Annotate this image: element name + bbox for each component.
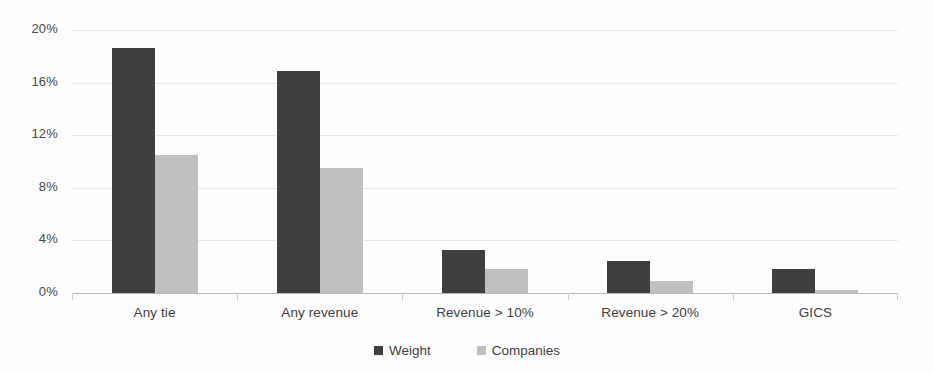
x-tick-mark-5 [897,293,898,300]
plot-area [72,30,898,293]
x-label-revenue-gt-20: Revenue > 20% [568,305,733,320]
x-tick-mark-3 [568,293,569,300]
legend-swatch-icon-weight [374,346,383,355]
y-tick-label-4: 16% [2,74,58,89]
bar-weight-revenue-gt-10 [442,250,485,293]
bar-group-revenue-gt-20 [568,30,733,293]
legend-label-companies: Companies [492,343,560,358]
bar-weight-any-tie [112,48,155,293]
x-label-any-tie: Any tie [72,305,237,320]
y-tick-label-2: 8% [2,179,58,194]
x-tick-mark-0 [72,293,73,300]
x-label-revenue-gt-10: Revenue > 10% [402,305,567,320]
bar-companies-revenue-gt-10 [485,269,528,293]
y-tick-label-3: 12% [2,126,58,141]
x-tick-mark-1 [237,293,238,300]
legend-swatch-icon-companies [477,346,486,355]
x-axis-line [72,293,898,294]
x-axis-category-labels: Any tie Any revenue Revenue > 10% Revenu… [72,305,898,320]
bar-companies-any-revenue [320,168,363,293]
legend-item-weight: Weight [374,343,431,358]
bar-chart: 0% 4% 8% 12% 16% 20% [0,0,934,373]
x-label-any-revenue: Any revenue [237,305,402,320]
bar-group-gics [733,30,898,293]
y-axis-tick-labels: 0% 4% 8% 12% 16% 20% [0,30,66,293]
bar-group-any-tie [72,30,237,293]
legend-item-companies: Companies [477,343,560,358]
bar-group-revenue-gt-10 [402,30,567,293]
bar-weight-revenue-gt-20 [607,261,650,293]
x-tick-mark-4 [733,293,734,300]
legend-label-weight: Weight [389,343,431,358]
y-tick-label-1: 4% [2,231,58,246]
bar-group-any-revenue [237,30,402,293]
bar-companies-any-tie [155,155,198,293]
x-label-gics: GICS [733,305,898,320]
x-tick-mark-2 [402,293,403,300]
bar-weight-any-revenue [277,71,320,293]
y-tick-label-5: 20% [2,21,58,36]
chart-legend: Weight Companies [0,343,934,358]
bar-groups [72,30,898,293]
bar-weight-gics [772,269,815,293]
bar-companies-revenue-gt-20 [650,281,693,293]
y-tick-label-0: 0% [2,284,58,299]
